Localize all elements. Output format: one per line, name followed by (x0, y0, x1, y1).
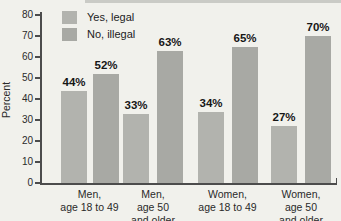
category-label-line: and older (131, 214, 175, 221)
y-tick-label-60: 60 (11, 52, 33, 62)
legend-label-yes-legal: Yes, legal (87, 11, 134, 24)
category-label-women-age-50-and-older: Women,age 50and older (279, 188, 323, 221)
legend-item-no-illegal: No, illegal (62, 26, 135, 43)
bar-yes-legal-women-age-18-to-49 (198, 112, 224, 183)
y-axis-line (40, 12, 42, 184)
category-label-line: age 50 (279, 201, 323, 214)
y-tick-mark-20 (35, 140, 40, 141)
bar-value-label-no-illegal-men-age-18-to-49: 52% (94, 59, 117, 71)
y-tick-label-0: 0 (11, 178, 33, 188)
y-tick-mark-10 (35, 161, 40, 162)
category-label-women-age-18-to-49: Women,age 18 to 49 (198, 188, 256, 214)
bar-value-label-yes-legal-men-age-50-and-older: 33% (124, 99, 147, 111)
scan-edge-artifact (85, 0, 341, 3)
bar-value-label-no-illegal-women-age-18-to-49: 65% (233, 32, 256, 44)
y-tick-mark-0 (35, 182, 40, 183)
x-axis-line (40, 183, 337, 185)
bar-no-illegal-women-age-50-and-older (305, 36, 331, 183)
legend-item-yes-legal: Yes, legal (62, 9, 135, 26)
legend-swatch-no-illegal (62, 28, 77, 41)
bar-yes-legal-men-age-50-and-older (123, 114, 149, 183)
bar-yes-legal-men-age-18-to-49 (61, 91, 87, 183)
y-tick-label-20: 20 (11, 136, 33, 146)
legend-label-no-illegal: No, illegal (87, 28, 135, 41)
y-tick-mark-80 (35, 14, 40, 15)
category-label-men-age-50-and-older: Men,age 50and older (131, 188, 175, 221)
bar-no-illegal-women-age-18-to-49 (232, 47, 258, 184)
y-tick-mark-30 (35, 119, 40, 120)
category-label-line: Women, (198, 188, 256, 201)
bar-yes-legal-women-age-50-and-older (271, 126, 297, 183)
bar-no-illegal-men-age-50-and-older (157, 51, 183, 183)
legend: Yes, legalNo, illegal (62, 9, 135, 43)
bar-no-illegal-men-age-18-to-49 (93, 74, 119, 183)
y-tick-label-40: 40 (11, 94, 33, 104)
category-label-line: and older (279, 214, 323, 221)
category-label-line: age 18 to 49 (60, 201, 118, 214)
category-label-line: age 50 (131, 201, 175, 214)
y-tick-label-80: 80 (11, 10, 33, 20)
category-label-men-age-18-to-49: Men,age 18 to 49 (60, 188, 118, 214)
category-label-line: Men, (60, 188, 118, 201)
bar-value-label-yes-legal-men-age-18-to-49: 44% (62, 76, 85, 88)
y-tick-mark-50 (35, 77, 40, 78)
y-tick-label-50: 50 (11, 73, 33, 83)
y-tick-label-10: 10 (11, 157, 33, 167)
bar-value-label-no-illegal-men-age-50-and-older: 63% (158, 36, 181, 48)
bar-value-label-no-illegal-women-age-50-and-older: 70% (306, 21, 329, 33)
y-tick-mark-40 (35, 98, 40, 99)
bar-value-label-yes-legal-women-age-18-to-49: 34% (199, 97, 222, 109)
legend-swatch-yes-legal (62, 11, 77, 24)
category-label-line: Women, (279, 188, 323, 201)
x-axis-end-tick (336, 178, 337, 184)
bar-chart-figure: Percent 01020304050607080 44%52%33%63%34… (0, 0, 341, 221)
bar-value-label-yes-legal-women-age-50-and-older: 27% (272, 111, 295, 123)
y-tick-label-70: 70 (11, 31, 33, 41)
y-tick-label-30: 30 (11, 115, 33, 125)
category-label-line: age 18 to 49 (198, 201, 256, 214)
y-tick-mark-70 (35, 35, 40, 36)
y-tick-mark-60 (35, 56, 40, 57)
category-label-line: Men, (131, 188, 175, 201)
